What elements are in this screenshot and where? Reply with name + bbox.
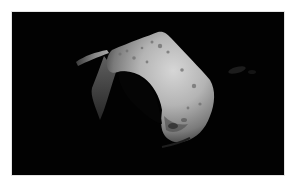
- asteroid-photo: [12, 12, 284, 175]
- asteroid-illustration: [12, 12, 284, 175]
- faint-object: [228, 65, 247, 75]
